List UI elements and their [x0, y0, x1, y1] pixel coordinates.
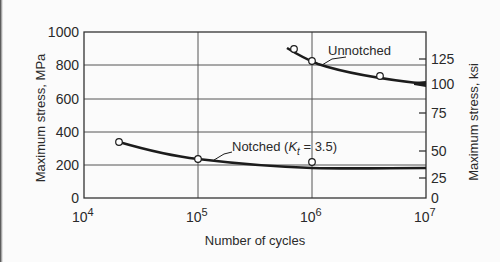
data-point — [377, 73, 384, 80]
y-axis-title-right: Maximum stress, ksi — [466, 63, 481, 181]
data-point — [116, 139, 123, 146]
x-axis-title: Number of cycles — [205, 233, 306, 248]
right-axis-tick-labels: 125 100 75 50 25 0 — [431, 51, 455, 206]
left-axis-tick-labels: 1000 800 600 400 200 0 — [48, 24, 79, 206]
x-tick-1e5: 105 — [186, 206, 208, 225]
y2-tick-0: 0 — [431, 190, 439, 206]
y2-tick-25: 25 — [431, 170, 447, 186]
notched-leader-line — [214, 152, 232, 160]
y-tick-600: 600 — [56, 91, 80, 107]
y2-tick-125: 125 — [431, 51, 455, 67]
y-tick-0: 0 — [71, 190, 79, 206]
sn-fatigue-chart: 1000 800 600 400 200 0 125 100 75 50 25 … — [0, 0, 500, 262]
unnotched-leader-line — [322, 57, 346, 65]
x-tick-1e4: 104 — [72, 206, 94, 225]
data-point — [309, 159, 316, 166]
y2-tick-50: 50 — [431, 143, 447, 159]
x-axis-tick-labels: 104 105 106 107 — [72, 206, 436, 225]
y-axis-title-left: Maximum stress, MPa — [33, 53, 48, 182]
notched-label: Notched (Kt = 3.5) — [232, 139, 337, 157]
y-tick-400: 400 — [56, 124, 80, 140]
y-tick-1000: 1000 — [48, 24, 79, 40]
x-tick-1e7: 107 — [414, 206, 436, 225]
data-point — [309, 58, 316, 65]
data-point — [291, 46, 298, 53]
data-point — [195, 156, 202, 163]
unnotched-label: Unnotched — [328, 43, 391, 58]
y-tick-800: 800 — [56, 57, 80, 73]
x-tick-1e6: 106 — [300, 206, 322, 225]
y-tick-200: 200 — [56, 157, 80, 173]
y2-tick-100: 100 — [431, 76, 455, 92]
right-axis-ticks — [419, 59, 426, 178]
y2-tick-75: 75 — [431, 105, 447, 121]
unnotched-curve-end — [414, 81, 426, 87]
